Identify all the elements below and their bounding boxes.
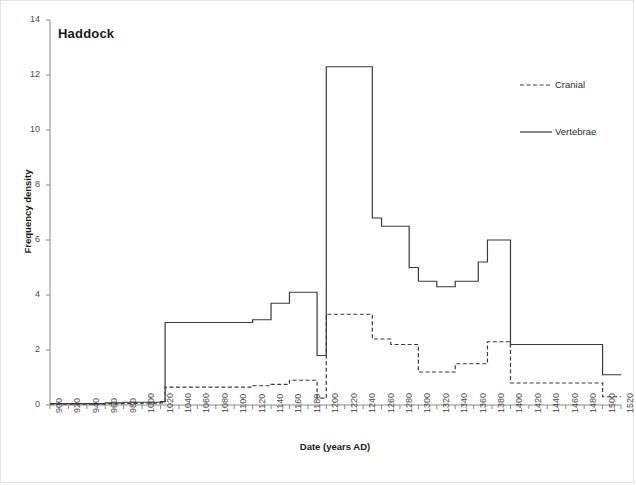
x-tick-label: 1040 bbox=[183, 393, 193, 413]
x-tick-label: 1320 bbox=[441, 393, 451, 413]
x-tick-label: 1340 bbox=[459, 393, 469, 413]
x-tick-label: 940 bbox=[91, 398, 101, 413]
x-tick-label: 1260 bbox=[386, 393, 396, 413]
x-tick-label: 1240 bbox=[367, 393, 377, 413]
x-tick-label: 1220 bbox=[349, 393, 359, 413]
x-tick-label: 1380 bbox=[496, 393, 506, 413]
x-tick-label: 920 bbox=[72, 398, 82, 413]
x-tick-label: 1300 bbox=[422, 393, 432, 413]
x-tick-label: 1500 bbox=[607, 393, 617, 413]
y-tick-label: 2 bbox=[14, 344, 40, 354]
x-tick-label: 1060 bbox=[201, 393, 211, 413]
y-tick-label: 10 bbox=[14, 124, 40, 134]
x-tick-label: 1120 bbox=[257, 394, 267, 413]
y-tick-label: 14 bbox=[14, 14, 40, 24]
x-tick-label: 1520 bbox=[625, 393, 635, 413]
x-tick-label: 1000 bbox=[146, 393, 156, 413]
chart-figure: Haddock Frequency density Date (years AD… bbox=[0, 0, 634, 483]
y-tick-label: 4 bbox=[14, 289, 40, 299]
x-tick-label: 1420 bbox=[533, 393, 543, 413]
x-tick-label: 1020 bbox=[165, 393, 175, 413]
x-tick-label: 1200 bbox=[330, 393, 340, 413]
x-axis-title: Date (years AD) bbox=[50, 441, 620, 452]
x-tick-label: 1280 bbox=[404, 393, 414, 413]
chart-title: Haddock bbox=[58, 26, 114, 41]
y-tick-label: 8 bbox=[14, 179, 40, 189]
x-tick-label: 1360 bbox=[478, 393, 488, 413]
series-line-vertebrae bbox=[50, 67, 621, 404]
x-tick-label: 1160 bbox=[293, 394, 303, 413]
x-tick-label: 1180 bbox=[312, 394, 322, 413]
x-tick-label: 1460 bbox=[570, 393, 580, 413]
x-tick-label: 1400 bbox=[514, 393, 524, 413]
x-tick-label: 1140 bbox=[275, 394, 285, 413]
x-tick-label: 1480 bbox=[588, 393, 598, 413]
legend-label-cranial: Cranial bbox=[555, 79, 585, 90]
x-tick-label: 1100 bbox=[238, 394, 248, 413]
y-tick-label: 6 bbox=[14, 234, 40, 244]
x-tick-label: 960 bbox=[109, 398, 119, 413]
series-line-cranial bbox=[50, 314, 621, 404]
legend-label-vertebrae: Vertebrae bbox=[555, 126, 596, 137]
y-tick-label: 12 bbox=[14, 69, 40, 79]
x-tick-label: 1440 bbox=[551, 393, 561, 413]
x-tick-label: 980 bbox=[128, 398, 138, 413]
y-axis-title: Frequency density bbox=[22, 142, 33, 282]
x-tick-label: 1080 bbox=[220, 393, 230, 413]
axis-lines bbox=[50, 20, 621, 405]
y-tick-label: 0 bbox=[14, 399, 40, 409]
x-tick-label: 900 bbox=[54, 398, 64, 413]
